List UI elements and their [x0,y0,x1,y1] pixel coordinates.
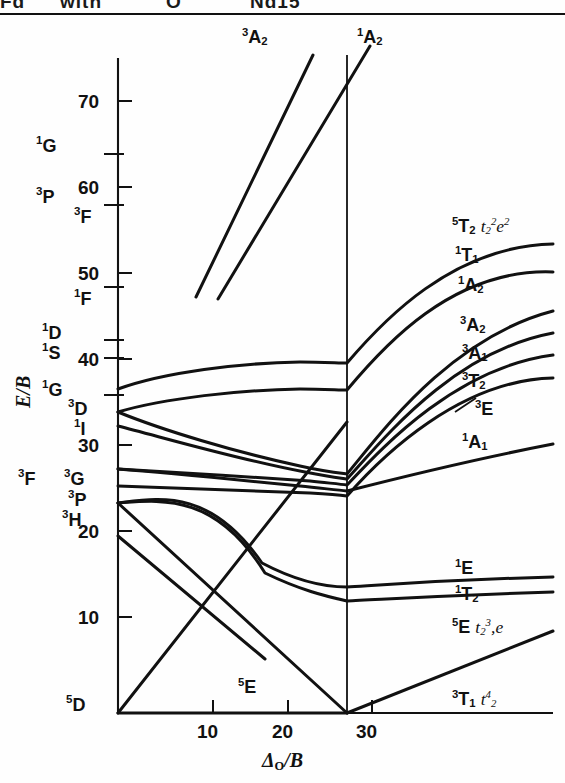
free-ion-level-marks [104,154,124,395]
curve-label-3A2: 3A2 [460,316,486,334]
curve-label-5E: 5E t23,e [452,618,503,636]
free-ion-term-3F-upper: 3F [74,208,91,226]
tanabe-sugano-figure: Fd with O Nd15 [0,0,565,783]
free-ion-term-1G-upper: 1G [36,137,56,155]
curve-5T2 [118,422,347,713]
x-tick-label-10: 10 [197,722,218,741]
curve-label-3T1: 3T1 t42 [452,690,496,708]
y-tick-label-50: 50 [78,264,99,283]
free-ion-term-3P: 3P [36,188,54,206]
free-ion-term-1G-lower: 1G [42,381,62,399]
free-ion-term-3G: 3G [64,470,84,488]
free-ion-term-3F-lower: 3F [18,470,35,488]
free-ion-term-3D: 3D [68,400,87,418]
free-ion-term-1F: 1F [74,290,91,308]
curve-3T2 [118,355,553,485]
term-curves [118,46,553,713]
y-tick-label-40: 40 [78,350,99,369]
config-5T2: t22e2 [481,216,510,236]
x-axis-delta-sub: O [275,759,285,773]
curve-label-1T2: 1T2 [455,585,479,603]
free-ion-term-1I: 1I [74,420,85,438]
config-5E: t23,e [475,617,503,637]
curve-3A2-upper [196,55,313,297]
y-tick-label-60: 60 [78,178,99,197]
curve-label-1E: 1E [455,559,473,577]
x-tick-label-30: 30 [356,722,377,741]
free-ion-term-3P-lower: 3P [68,491,86,509]
curve-label-1T1: 1T1 [455,246,479,264]
curve-1E [118,500,553,587]
curve-label-1A2: 1A2 [458,276,484,294]
y-axis-title: E/B [12,376,35,408]
x-axis-delta: Δ [262,749,275,771]
curve-label-3E: 3E [475,400,493,418]
free-ion-term-5D: 5D [66,696,85,714]
curve-3T1-ground [347,631,553,713]
y-tick-label-70: 70 [78,92,99,111]
free-ion-term-1D: 1D [42,324,61,342]
diagram-canvas [0,0,565,783]
curve-label-3A1: 3A1 [462,344,488,362]
curve-label-3A2-top: 3A2 [242,28,268,46]
x-axis-title: ΔO/B [262,750,303,770]
free-ion-term-3H: 3H [62,511,81,529]
curve-label-5T2: 5T2 t22e2 [452,217,509,235]
y-tick-label-10: 10 [78,608,99,627]
free-ion-term-1S: 1S [42,344,60,362]
curve-1T1 [118,244,553,389]
config-3T1: t42 [481,689,497,709]
curve-label-3T2: 3T2 [462,372,486,390]
x-axis-overB: /B [284,749,303,771]
curve-label-1A2-top: 1A2 [357,28,383,46]
curve-label-1A1: 1A1 [462,433,488,451]
ground-state-label-5E: 5E [238,678,256,696]
x-tick-label-20: 20 [272,722,293,741]
